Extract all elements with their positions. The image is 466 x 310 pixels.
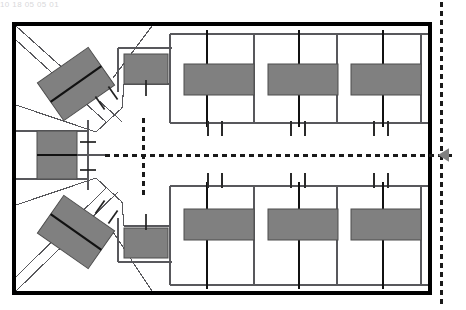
bay-stall-u1 xyxy=(184,64,254,95)
parking-stall-group xyxy=(37,47,421,268)
bay-stall-u3 xyxy=(351,64,421,95)
bay-stall-l2 xyxy=(268,209,338,240)
edge-stall-upper xyxy=(124,54,168,84)
site-plan-drawing xyxy=(0,0,466,310)
aisle-tick-u2 xyxy=(108,86,117,99)
angled-stall-upper xyxy=(37,47,114,120)
bay-stall-l1 xyxy=(184,209,254,240)
aisle-tick-mark xyxy=(108,210,117,223)
bay-stall-l3 xyxy=(351,209,421,240)
guide-line xyxy=(96,108,122,132)
guide-line xyxy=(122,84,124,108)
aisle-tick-l2 xyxy=(108,210,117,223)
edge-stall-lower xyxy=(124,228,168,258)
bay-stall-u2 xyxy=(268,64,338,95)
guide-line xyxy=(96,178,122,202)
parking-site-plan: 10 18 05 05 01 xyxy=(0,0,466,310)
guide-line xyxy=(118,118,122,122)
guide-line xyxy=(16,178,96,205)
aisle-tick-u1 xyxy=(95,96,104,109)
guide-line xyxy=(122,202,124,226)
aisle-tick-mark xyxy=(108,86,117,99)
aisle-tick-mark xyxy=(95,96,104,109)
